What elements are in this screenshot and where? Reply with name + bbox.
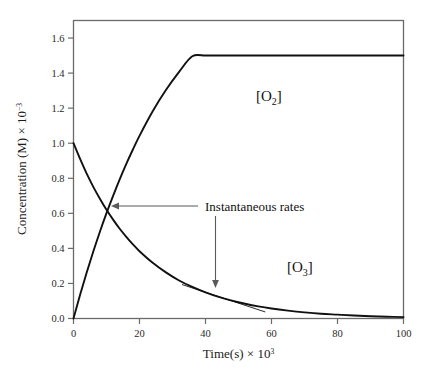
series-label-o2-close: ]	[277, 88, 282, 104]
x-tick-label: 20	[134, 328, 145, 339]
x-tick-label: 100	[396, 328, 412, 339]
x-tick-label: 60	[266, 328, 277, 339]
y-tick-label: 1.4	[51, 68, 65, 79]
y-axis-title-main: Concentration (M) × 10	[14, 111, 29, 235]
y-tick-label: 0.2	[51, 278, 64, 289]
x-tick-label: 80	[332, 328, 343, 339]
figure-background	[0, 0, 425, 382]
chart-figure: 0.00.20.40.60.81.01.21.41.6 020406080100…	[0, 0, 425, 382]
y-tick-label: 0.4	[51, 243, 65, 254]
series-label-o3-base: [O	[287, 259, 303, 275]
x-axis-title-main: Time(s) × 10	[203, 346, 271, 361]
x-tick-label: 40	[200, 328, 211, 339]
y-tick-label: 0.6	[51, 208, 64, 219]
series-label-o3-close: ]	[308, 259, 313, 275]
y-tick-label: 0.0	[51, 313, 64, 324]
x-axis-title: Time(s) × 103	[203, 346, 275, 361]
y-tick-label: 1.2	[51, 103, 64, 114]
y-tick-label: 0.8	[51, 173, 64, 184]
kinetics-concentration-plot: 0.00.20.40.60.81.01.21.41.6 020406080100…	[0, 0, 425, 382]
y-tick-label: 1.6	[51, 33, 64, 44]
y-axis-title: Concentration (M) × 10−3	[14, 103, 29, 235]
x-axis-title-exponent: 3	[270, 347, 274, 356]
x-tick-label: 0	[71, 328, 76, 339]
annotation-text: Instantaneous rates	[205, 199, 304, 214]
y-axis-title-exponent: −3	[15, 103, 24, 111]
y-tick-label: 1.0	[51, 138, 64, 149]
series-label-o2-base: [O	[256, 88, 272, 104]
